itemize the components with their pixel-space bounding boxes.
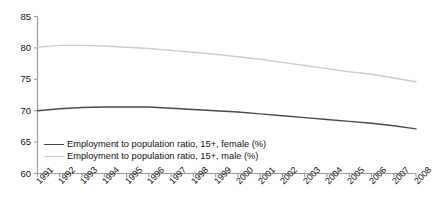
y-axis-tick-label: 80 — [7, 42, 31, 53]
legend-label: Employment to population ratio, 15+, mal… — [67, 151, 258, 161]
data-series-group — [38, 45, 417, 129]
y-axis-tick-label: 65 — [7, 136, 31, 147]
legend-swatch — [44, 156, 64, 157]
y-axis-tick-label: 75 — [7, 73, 31, 84]
series-line — [38, 107, 417, 129]
legend-label: Employment to population ratio, 15+, fem… — [67, 139, 266, 149]
series-line — [38, 45, 417, 81]
y-axis-tick-label: 70 — [7, 105, 31, 116]
y-axis-tick-label: 60 — [7, 168, 31, 179]
y-axis-tick-label: 85 — [7, 11, 31, 22]
legend-swatch — [44, 144, 64, 145]
